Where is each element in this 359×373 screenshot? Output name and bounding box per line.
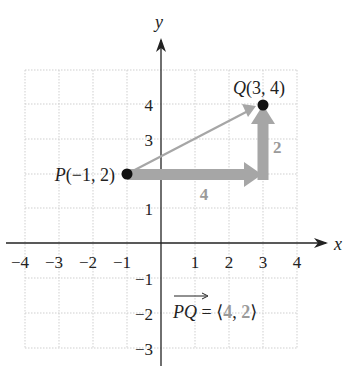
vector-diagram: x y −4 −3 −2 −1 1 2 3 4 1 3 4 −1 −2 −3 4… [0, 0, 359, 373]
y-tick-labels: 1 3 4 −1 −2 −3 [135, 96, 154, 359]
svg-text:−2: −2 [79, 253, 97, 272]
svg-text:1: 1 [145, 200, 154, 219]
point-q [258, 100, 269, 111]
svg-text:−1: −1 [135, 270, 153, 289]
svg-text:3: 3 [145, 131, 154, 150]
x-tick-labels: −4 −3 −2 −1 1 2 3 4 [11, 253, 302, 272]
svg-text:1: 1 [191, 253, 200, 272]
vertical-component-arrow [251, 105, 275, 180]
svg-text:2: 2 [225, 253, 234, 272]
vector-equation: PQ = ⟨4, 2⟩ [172, 293, 257, 322]
point-p-label: P(−1, 2) [54, 165, 115, 186]
svg-text:−3: −3 [45, 253, 63, 272]
svg-text:3: 3 [259, 253, 268, 272]
svg-text:PQ = ⟨4, 2⟩: PQ = ⟨4, 2⟩ [172, 302, 257, 322]
horizontal-component-arrow [127, 162, 262, 187]
point-q-label: Q(3, 4) [233, 78, 285, 99]
y-axis-label: y [153, 12, 163, 32]
svg-text:−2: −2 [135, 305, 153, 324]
svg-text:−3: −3 [135, 340, 153, 359]
svg-text:4: 4 [145, 96, 154, 115]
vertical-component-label: 2 [273, 138, 282, 157]
x-axis-label: x [333, 234, 342, 254]
svg-text:−4: −4 [11, 253, 30, 272]
svg-text:−1: −1 [113, 253, 131, 272]
point-p [122, 169, 133, 180]
svg-text:4: 4 [293, 253, 302, 272]
horizontal-component-label: 4 [200, 185, 209, 204]
